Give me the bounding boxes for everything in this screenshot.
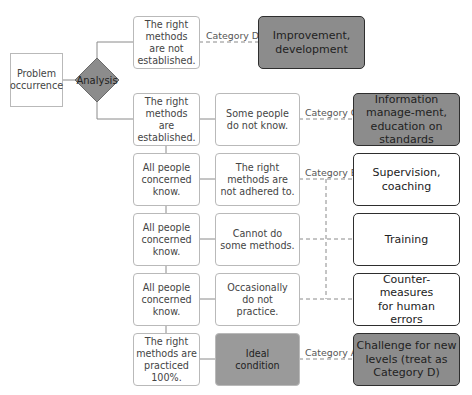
row-middle-label: Some people do not know. [222, 108, 293, 132]
condition-not-established: The right methods are not established. [133, 16, 200, 69]
action-information-management: Information manage-ment, education on st… [353, 93, 460, 146]
action-label: Information manage-ment, education on st… [356, 93, 457, 147]
row-middle-label: Ideal condition [234, 348, 281, 372]
action-label: Challenge for new levels (treat as Categ… [356, 339, 457, 380]
row-left-box: The right methods are established. [133, 93, 200, 146]
category-a-label: Category A [305, 347, 357, 358]
action-label: Supervision, coaching [373, 166, 441, 193]
analysis-label: Analysis [75, 58, 119, 102]
row-left-label: The right methods are practiced 100%. [136, 336, 197, 384]
row-left-box: All people concerned know. [133, 213, 200, 266]
action-improvement-development: Improvement, development [258, 16, 365, 69]
start-label: Problem occurrence [10, 68, 63, 92]
row-left-label: The right methods are established. [137, 96, 196, 144]
action-label: Improvement, development [267, 29, 356, 56]
row-middle-box: Some people do not know. [215, 93, 300, 146]
action-label: Training [385, 233, 428, 247]
action-challenge-new-levels: Challenge for new levels (treat as Categ… [353, 333, 460, 386]
action-countermeasures-human-errors: Counter-measures for human errors [353, 273, 460, 326]
condition-label: The right methods are not established. [137, 19, 195, 67]
category-d-label: Category D [206, 30, 259, 41]
row-middle-box: Occasionally do not practice. [215, 273, 300, 326]
row-left-box: The right methods are practiced 100%. [133, 333, 200, 386]
row-middle-label: Cannot do some methods. [220, 228, 295, 252]
action-training: Training [353, 213, 460, 266]
row-left-label: All people concerned know. [138, 162, 195, 198]
category-b-label: Category B [305, 167, 357, 178]
row-middle-box: Cannot do some methods. [215, 213, 300, 266]
row-middle-box: The right methods are not adhered to. [215, 153, 300, 206]
row-left-label: All people concerned know. [138, 282, 195, 318]
row-middle-label: Occasionally do not practice. [220, 282, 295, 318]
row-left-label: All people concerned know. [138, 222, 195, 258]
action-supervision-coaching: Supervision, coaching [353, 153, 460, 206]
action-label: Counter-measures for human errors [372, 273, 441, 327]
ideal-condition-box: Ideal condition [215, 333, 300, 386]
category-c-label: Category C [305, 107, 357, 118]
row-left-box: All people concerned know. [133, 153, 200, 206]
row-middle-label: The right methods are not adhered to. [220, 162, 295, 198]
start-problem-occurrence: Problem occurrence [10, 53, 63, 107]
row-left-box: All people concerned know. [133, 273, 200, 326]
